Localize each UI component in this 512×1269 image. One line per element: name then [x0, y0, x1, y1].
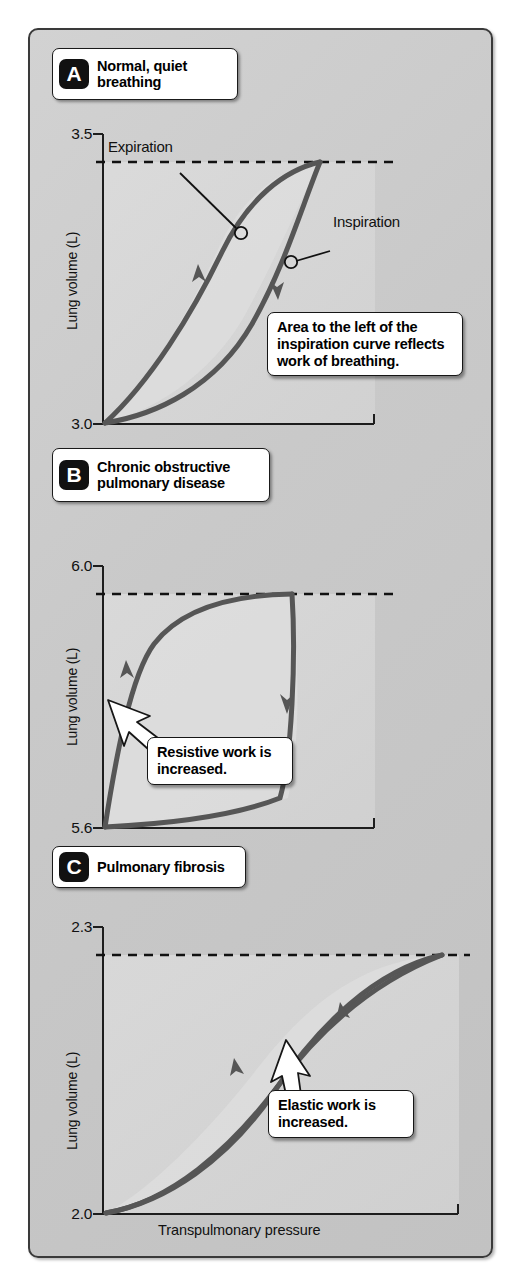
- panel-b-ytick-top: 6.0: [36, 557, 92, 575]
- panel-a-callout: Area to the left of the inspiration curv…: [267, 312, 463, 376]
- figure-root: A Normal, quiet breathing 3.5 3.0 Lung v…: [0, 0, 512, 1269]
- panel-c-tag: C Pulmonary fibrosis: [52, 846, 246, 888]
- panel-a-letter: A: [59, 59, 89, 89]
- panel-c-y-axis-label: Lung volume (L): [64, 1052, 80, 1150]
- panel-c-letter: C: [59, 852, 89, 882]
- panel-b-letter: B: [59, 460, 89, 490]
- panel-a-expiration-label: Expiration: [108, 138, 173, 155]
- panel-a-inspiration-label: Inspiration: [333, 213, 400, 230]
- x-axis-label: Transpulmonary pressure: [158, 1222, 320, 1238]
- panel-a-title: Normal, quiet breathing: [97, 58, 227, 91]
- panel-a-y-axis-label: Lung volume (L): [64, 232, 80, 330]
- panel-c-callout: Elastic work is increased.: [268, 1090, 414, 1138]
- panel-b-title: Chronic obstructive pulmonary disease: [97, 459, 259, 492]
- panel-b-tag: B Chronic obstructive pulmonary disease: [52, 448, 270, 502]
- panel-c-title: Pulmonary fibrosis: [97, 859, 225, 875]
- panel-c-ytick-top: 2.3: [36, 918, 92, 936]
- figure-frame: A Normal, quiet breathing 3.5 3.0 Lung v…: [28, 28, 493, 1258]
- panel-c-ytick-bottom: 2.0: [36, 1205, 92, 1223]
- panel-a-tag: A Normal, quiet breathing: [52, 48, 238, 100]
- panel-c-plot: [30, 830, 491, 1260]
- panel-b-y-axis-label: Lung volume (L): [64, 648, 80, 746]
- panel-a-ytick-top: 3.5: [36, 125, 92, 143]
- panel-b-callout: Resistive work is increased.: [147, 737, 293, 785]
